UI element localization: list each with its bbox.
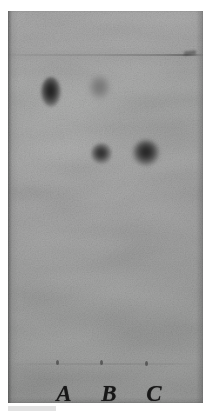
spot-lane-b-upper [88, 75, 111, 100]
lane-label-a: A [49, 381, 79, 403]
bottom-edge-artifact [8, 406, 56, 411]
plate-grain-texture [8, 11, 203, 403]
tlc-plate: A B C [8, 11, 203, 403]
origin-mark-b [100, 360, 103, 365]
lane-label-b: B [94, 381, 124, 403]
spot-lane-a-upper [41, 77, 61, 107]
origin-baseline [14, 363, 196, 365]
origin-mark-c [145, 361, 148, 366]
tlc-plate-figure: A B C [0, 0, 212, 413]
lane-label-c: C [139, 381, 169, 403]
spot-lane-b-lower [91, 143, 112, 164]
plate-edge-shading [8, 11, 203, 403]
solvent-front-tick-mark [184, 50, 196, 55]
spot-lane-c-lower [133, 140, 159, 166]
solvent-front-line [8, 54, 203, 56]
origin-mark-a [56, 360, 59, 365]
solvent-front-halo [8, 49, 203, 61]
